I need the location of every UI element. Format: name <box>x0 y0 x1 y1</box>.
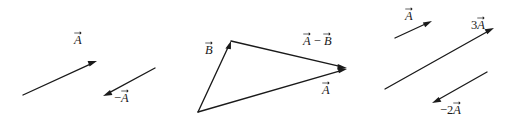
label-vector-a-middle: A <box>322 84 330 97</box>
label-text-a: A <box>303 35 311 48</box>
vector-symbol: A <box>74 34 82 47</box>
vector-a-small-arrow <box>395 21 432 38</box>
label-text: A <box>453 104 461 117</box>
vector-symbol: A <box>405 10 413 23</box>
label-vector-a-right: A <box>405 10 413 23</box>
label-vector-b: B <box>205 44 213 57</box>
vector-symbol-b: B <box>324 35 332 48</box>
label-text: A <box>74 34 82 47</box>
vector-b-arrow <box>198 41 231 112</box>
label-vector-minus-2a: −2 A <box>440 104 461 117</box>
vector-minus-2a-arrow <box>432 72 487 103</box>
vector-a-arrow <box>23 61 97 95</box>
panel-negation-arrows <box>23 61 155 96</box>
vector-symbol: B <box>205 44 213 57</box>
label-text: A <box>322 84 330 97</box>
vector-minus-a-arrow <box>103 68 155 96</box>
label-text: A <box>477 19 485 32</box>
label-text: A <box>405 10 413 23</box>
minus-sign: − <box>114 91 121 105</box>
minus-sign: − <box>440 103 447 117</box>
vector-symbol: A <box>477 19 485 32</box>
vector-symbol: A <box>121 92 129 105</box>
label-text-b: B <box>324 35 332 48</box>
minus-operator: − <box>311 34 324 48</box>
vector-symbol-a: A <box>303 35 311 48</box>
vector-figure: A − A B <box>0 0 515 126</box>
label-text: B <box>205 44 213 57</box>
label-vector-a-minus-b: A − B <box>303 35 332 48</box>
vector-canvas <box>0 0 515 126</box>
vector-symbol: A <box>453 104 461 117</box>
label-vector-3a: 3 A <box>471 19 485 32</box>
label-vector-minus-a: − A <box>114 92 129 105</box>
label-vector-a-left: A <box>74 34 82 47</box>
panel-scaling-arrows <box>385 21 494 103</box>
panel-subtraction-arrows <box>198 41 347 112</box>
label-text: A <box>121 92 129 105</box>
vector-3a-arrow <box>385 28 494 89</box>
vector-symbol: A <box>322 84 330 97</box>
